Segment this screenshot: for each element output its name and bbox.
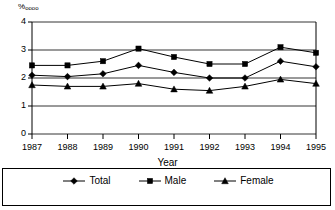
marker-male-1987 [29,63,34,68]
legend-marker-diamond-icon [61,176,87,186]
marker-male-1994 [278,45,283,50]
x-tick-label-1993: 1993 [228,142,262,152]
legend-marker-glyph [71,178,78,185]
marker-male-1990 [136,46,141,51]
legend-label-male: Male [165,176,187,186]
x-tick-label-1987: 1987 [15,142,49,152]
legend-item-male[interactable]: Male [137,176,187,186]
marker-male-1993 [242,61,247,66]
y-tick-label-3: 3 [12,44,26,54]
marker-total-1989 [100,71,107,78]
legend-label-total: Total [89,176,110,186]
series-male [29,45,318,68]
y-tick-label-2: 2 [12,72,26,82]
x-tick-label-1992: 1992 [193,142,227,152]
y-tick-label-0: 0 [12,128,26,138]
legend-item-female[interactable]: Female [212,176,273,186]
marker-female-1994 [277,76,284,82]
marker-total-1991 [171,69,178,76]
marker-total-1990 [135,62,142,69]
legend-marker-square-icon [137,176,163,186]
legend-border [2,168,331,206]
legend-label-female: Female [240,176,273,186]
x-tick-label-1995: 1995 [299,142,333,152]
marker-total-1992 [206,75,213,82]
legend-marker-glyph [147,178,152,183]
x-axis-title: Year [0,157,335,168]
y-tick-label-1: 1 [12,100,26,110]
legend-marker-triangle-icon [212,176,238,186]
marker-male-1995 [313,50,318,55]
series-female [29,76,320,93]
legend: TotalMaleFemale [0,176,335,186]
marker-male-1988 [65,63,70,68]
marker-total-1993 [242,75,249,82]
marker-total-1994 [277,58,284,65]
marker-male-1991 [171,54,176,59]
x-tick-label-1994: 1994 [264,142,298,152]
x-tick-label-1991: 1991 [157,142,191,152]
marker-male-1992 [207,61,212,66]
x-tick-label-1989: 1989 [86,142,120,152]
line-chart: %oooo Year TotalMaleFemale 0123419871988… [0,0,335,210]
marker-total-1988 [64,73,71,80]
marker-male-1989 [100,59,105,64]
y-tick-label-4: 4 [12,16,26,26]
x-tick-label-1990: 1990 [122,142,156,152]
x-tick-label-1988: 1988 [51,142,85,152]
marker-total-1995 [313,64,320,71]
legend-item-total[interactable]: Total [61,176,110,186]
